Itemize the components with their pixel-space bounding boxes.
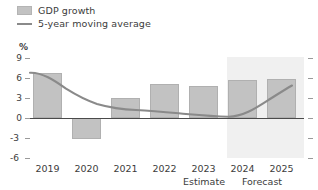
forecast-label: Forecast: [237, 176, 287, 187]
gdp-growth-chart: GDP growth 5-year moving average % 9 6 3…: [0, 0, 318, 190]
zero-axis-line: [30, 118, 304, 119]
estimate-label: Estimate: [179, 176, 229, 187]
plot-area: 9 6 3 0 -3 -6 2019 2020: [0, 0, 318, 190]
x-tick-label-2025: 2025: [259, 163, 304, 174]
moving-average-line: [0, 0, 318, 190]
